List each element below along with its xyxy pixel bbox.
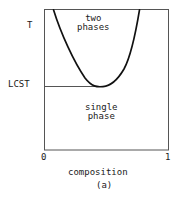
two-phases-region-label: two phases [77, 14, 110, 33]
single-phase-line-2: phase [85, 112, 118, 121]
panel-caption: (a) [96, 181, 112, 190]
lcst-axis-label: LCST [8, 80, 30, 89]
x-axis-label: composition [68, 168, 128, 177]
lcst-phase-diagram-figure: T LCST two phases single phase 0 1 compo… [0, 0, 184, 197]
x-axis-tick-min-label: 0 [41, 153, 46, 162]
single-phase-region-label: single phase [85, 103, 118, 122]
y-axis-label: T [27, 21, 32, 30]
x-axis-tick-max-label: 1 [165, 153, 170, 162]
two-phases-line-2: phases [77, 23, 110, 32]
